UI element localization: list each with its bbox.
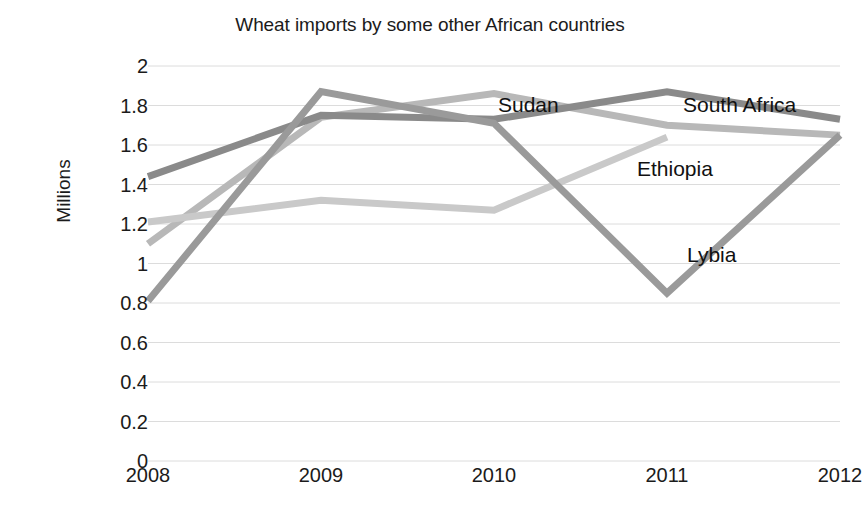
- x-tick-label: 2009: [266, 464, 376, 487]
- series-label-lybia: Lybia: [687, 243, 736, 267]
- x-tick-label: 2008: [93, 464, 203, 487]
- series-label-sudan: Sudan: [498, 93, 559, 117]
- x-tick-label: 2011: [612, 464, 722, 487]
- x-tick-label: 2010: [439, 464, 549, 487]
- series-label-south-africa: South Africa: [683, 93, 796, 117]
- x-tick-label: 2012: [785, 464, 866, 487]
- series-label-ethiopia: Ethiopia: [637, 157, 713, 181]
